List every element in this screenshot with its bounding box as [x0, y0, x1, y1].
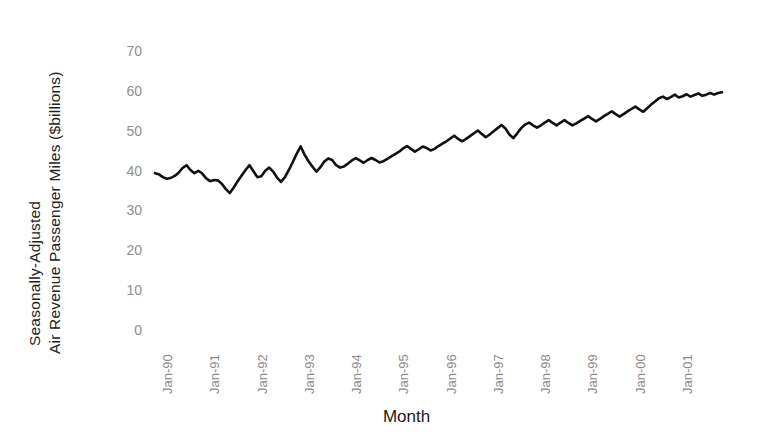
- y-tick-label: 50: [112, 123, 142, 139]
- y-tick-label: 60: [112, 83, 142, 99]
- x-tick-label: Jan-94: [349, 354, 364, 394]
- y-tick-label: 20: [112, 242, 142, 258]
- x-tick-label: Jan-96: [444, 354, 459, 394]
- y-axis-label-line2: Air Revenue Passenger Miles ($billions): [46, 14, 66, 354]
- y-axis-label-group: Seasonally-Adjusted Air Revenue Passenge…: [0, 0, 110, 360]
- x-tick-label: Jan-98: [538, 354, 553, 394]
- x-tick-label: Jan-97: [491, 354, 506, 394]
- y-tick-label: 40: [112, 163, 142, 179]
- y-tick-label: 70: [112, 43, 142, 59]
- x-tick-label: Jan-90: [160, 354, 175, 394]
- y-tick-label: 10: [112, 282, 142, 298]
- x-tick-label: Jan-99: [585, 354, 600, 394]
- x-axis-title-text: Month: [383, 407, 430, 427]
- data-series-line: [155, 92, 722, 193]
- x-tick-label: Jan-00: [633, 354, 648, 394]
- x-tick-label: Jan-92: [255, 354, 270, 394]
- y-tick-label: 0: [112, 322, 142, 338]
- x-tick-label: Jan-91: [207, 354, 222, 394]
- x-tick-label: Jan-93: [302, 354, 317, 394]
- y-axis-label-line1: Seasonally-Adjusted: [26, 16, 46, 346]
- plot-area: [0, 0, 763, 444]
- x-tick-label: Jan-95: [396, 354, 411, 394]
- y-tick-label: 30: [112, 202, 142, 218]
- chart-figure: Seasonally-Adjusted Air Revenue Passenge…: [0, 0, 763, 444]
- x-tick-label: Jan-01: [680, 354, 695, 394]
- x-axis-title: Month: [0, 407, 763, 427]
